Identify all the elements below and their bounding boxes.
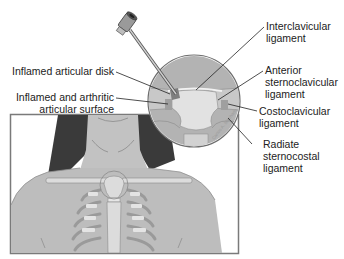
label-inflamed-articular-disk: Inflamed articular disk — [12, 65, 114, 77]
label-line: Inflamed articular disk — [12, 65, 114, 77]
label-line: Interclavicular — [266, 20, 331, 32]
label-radiate-sternocostal-ligament: Radiate sternocostal ligament — [263, 138, 320, 174]
label-line: sternoclavicular — [265, 76, 338, 88]
label-line: ligament — [266, 32, 331, 44]
label-line: Anterior — [265, 64, 338, 76]
label-line: articular surface — [12, 103, 114, 115]
label-inflamed-arthritic-surface: Inflamed and arthritic articular surface — [12, 91, 114, 115]
label-interclavicular-ligament: Interclavicular ligament — [266, 20, 331, 44]
label-anterior-sternoclavicular-ligament: Anterior sternoclavicular ligament — [265, 64, 338, 100]
label-costoclavicular-ligament: Costoclavicular ligament — [259, 105, 330, 129]
label-line: sternocostal — [263, 150, 320, 162]
label-line: ligament — [265, 88, 338, 100]
magnified-joint-view: Carlos A. Machado — [148, 55, 240, 148]
label-line: Inflamed and arthritic — [12, 91, 114, 103]
label-line: Radiate — [263, 138, 320, 150]
label-line: ligament — [263, 162, 320, 174]
needle-icon — [115, 10, 176, 94]
label-line: Costoclavicular — [259, 105, 330, 117]
label-line: ligament — [259, 117, 330, 129]
